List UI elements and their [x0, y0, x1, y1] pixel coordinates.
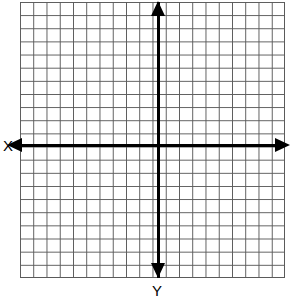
y-axis-label: Y	[152, 283, 162, 298]
y-axis-line	[157, 2, 160, 278]
x-axis-line	[20, 144, 285, 147]
coordinate-plane-figure: X Y	[0, 0, 297, 301]
y-axis-down-arrowhead-icon	[151, 263, 165, 278]
grid-background	[20, 2, 285, 278]
x-axis-right-arrowhead-icon	[275, 138, 290, 152]
y-axis-up-arrowhead-icon	[151, 1, 165, 16]
x-axis-label: X	[3, 138, 13, 153]
